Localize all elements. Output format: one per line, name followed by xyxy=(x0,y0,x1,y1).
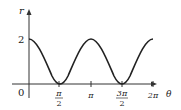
x-tick-label-pi: π xyxy=(87,91,94,100)
y-tick-label-2: 2 xyxy=(18,34,24,45)
x-axis-label: θ xyxy=(166,89,172,99)
x-tick-label-3pi-over-2-num: 3π xyxy=(117,89,128,98)
x-tick-label-3pi-over-2-den: 2 xyxy=(119,99,124,108)
polar-cosine-chart: r 2 0 π 2 π 3π 2 2π θ xyxy=(0,0,181,110)
origin-label: 0 xyxy=(18,87,24,98)
y-axis-arrow-icon xyxy=(27,9,32,15)
curve-r xyxy=(29,39,153,84)
x-tick-label-pi-over-2-den: 2 xyxy=(56,99,61,108)
x-tick-label-pi-over-2-num: π xyxy=(55,89,62,98)
x-tick-label-2pi: 2π xyxy=(147,91,159,100)
x-axis-arrow-icon xyxy=(151,82,157,87)
y-axis-label: r xyxy=(19,5,25,16)
